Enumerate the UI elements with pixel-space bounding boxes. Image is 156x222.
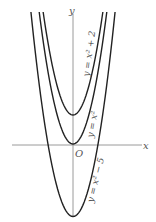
- x-axis-label: x: [143, 140, 149, 151]
- curve-label-x2: y = x²: [85, 110, 100, 140]
- curve-label-x2-plus-2: y = x² + 2: [81, 30, 97, 78]
- y-axis-label: y: [68, 5, 75, 16]
- curve-label-x2-minus-5: y = x² − 5: [85, 156, 106, 204]
- parabola-graph: y x O y = x² + 2 y = x² y = x² − 5: [0, 0, 156, 222]
- origin-label: O: [75, 148, 83, 159]
